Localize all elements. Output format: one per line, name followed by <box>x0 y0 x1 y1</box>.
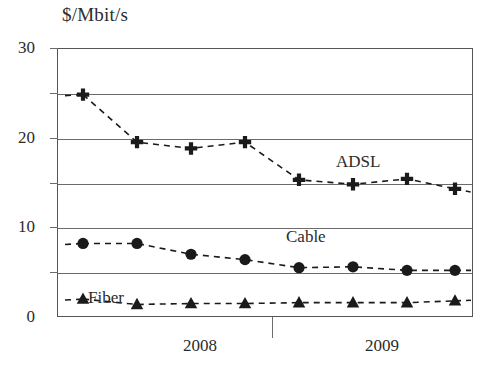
y-tick-mark-20 <box>50 138 58 139</box>
gridline-y-5 <box>58 273 472 274</box>
x-tick-mark-0 <box>272 317 273 338</box>
y-tick-label-20: 20 <box>0 128 42 148</box>
series-label-cable: Cable <box>286 227 326 247</box>
y-tick-label-30: 30 <box>0 38 42 58</box>
y-tick-label-10: 10 <box>0 217 42 237</box>
plot-area <box>57 48 473 317</box>
y-tick-mark-10 <box>50 227 58 228</box>
gridline-y-15 <box>58 184 472 185</box>
x-tick-label-2008: 2008 <box>183 336 217 356</box>
y-tick-mark-15 <box>50 183 58 184</box>
series-label-adsl: ADSL <box>336 152 380 172</box>
y-tick-label-0: 0 <box>0 307 42 327</box>
gridline-y-20 <box>58 139 472 140</box>
y-axis-title: $/Mbit/s <box>62 4 128 26</box>
series-label-fiber: Fiber <box>88 288 124 308</box>
y-tick-mark-25 <box>50 93 58 94</box>
chart-figure: $/Mbit/s 0102030 20082009 ADSLCableFiber <box>0 0 501 369</box>
gridline-y-10 <box>58 228 472 229</box>
x-tick-label-2009: 2009 <box>365 336 399 356</box>
gridline-y-25 <box>58 94 472 95</box>
y-tick-mark-5 <box>50 272 58 273</box>
y-tick-mark-30 <box>50 48 58 49</box>
